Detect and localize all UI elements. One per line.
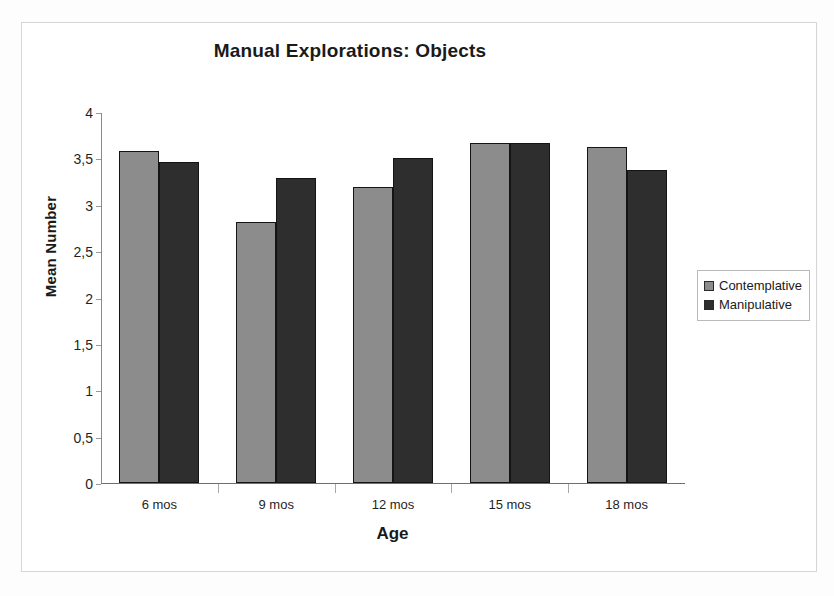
y-axis-tick-mark [96, 159, 101, 160]
x-axis-tick-label: 6 mos [101, 497, 218, 512]
bar-manipulative-6-mos [159, 162, 199, 483]
bar-contemplative-18-mos [587, 147, 627, 483]
x-axis-title: Age [100, 524, 685, 544]
y-axis-tick-mark [96, 438, 101, 439]
bar-contemplative-15-mos [470, 143, 510, 483]
y-axis-tick-mark [96, 113, 101, 114]
x-axis-tick-label: 15 mos [451, 497, 568, 512]
y-axis-tick-mark [96, 252, 101, 253]
y-axis-tick-label: 1,5 [49, 337, 93, 353]
y-axis-tick-mark [96, 391, 101, 392]
x-axis-tick-label: 9 mos [218, 497, 335, 512]
x-axis-tick-label: 18 mos [568, 497, 685, 512]
chart-legend: ContemplativeManipulative [697, 270, 810, 321]
y-axis-tick-mark [96, 484, 101, 485]
x-axis-separator [218, 484, 219, 493]
legend-swatch-icon [704, 281, 714, 291]
y-axis-tick-label: 2 [49, 291, 93, 307]
bar-contemplative-6-mos [119, 151, 159, 483]
x-axis-separator [335, 484, 336, 493]
bar-contemplative-12-mos [353, 187, 393, 483]
y-axis-tick-label: 0,5 [49, 430, 93, 446]
y-axis-line [101, 113, 102, 484]
x-axis-separator [451, 484, 452, 493]
x-axis-tick-label: 12 mos [335, 497, 452, 512]
y-axis-tick-label: 0 [49, 476, 93, 492]
plot-area: 00,511,522,533,54 6 mos9 mos12 mos15 mos… [101, 113, 685, 484]
y-axis-tick-label: 2,5 [49, 244, 93, 260]
legend-swatch-icon [704, 300, 714, 310]
legend-item: Contemplative [704, 276, 802, 295]
y-axis-tick-mark [96, 299, 101, 300]
chart-title: Manual Explorations: Objects [0, 40, 700, 62]
y-axis-tick-label: 3,5 [49, 151, 93, 167]
scanned-page: Manual Explorations: Objects Mean Number… [0, 0, 834, 596]
y-axis-tick-mark [96, 345, 101, 346]
bar-manipulative-18-mos [627, 170, 667, 483]
bar-manipulative-9-mos [276, 178, 316, 483]
y-axis-tick-mark [96, 206, 101, 207]
y-axis-tick-label: 1 [49, 383, 93, 399]
bar-contemplative-9-mos [236, 222, 276, 483]
x-axis-separator [568, 484, 569, 493]
bar-manipulative-15-mos [510, 143, 550, 483]
y-axis-tick-label: 4 [49, 105, 93, 121]
legend-label: Contemplative [719, 278, 802, 293]
legend-label: Manipulative [719, 297, 792, 312]
legend-item: Manipulative [704, 295, 802, 314]
x-axis-line [101, 483, 685, 484]
y-axis-tick-label: 3 [49, 198, 93, 214]
bar-manipulative-12-mos [393, 158, 433, 483]
